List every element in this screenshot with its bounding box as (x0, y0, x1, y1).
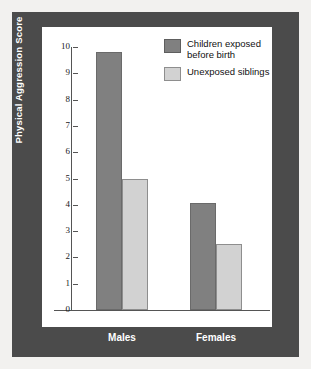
bar-males-unexposed (122, 179, 148, 311)
y-axis-tick-label: 6 (66, 146, 71, 157)
legend-item-unexposed: Unexposed siblings (164, 66, 274, 81)
y-axis-tick-mark (73, 73, 78, 74)
y-axis-tick-label: 5 (66, 173, 71, 184)
y-axis-tick-mark (73, 257, 78, 258)
y-axis-line (71, 47, 72, 310)
chart-figure: Physical Aggression Score Males Females … (0, 0, 311, 369)
y-axis-tick-mark (73, 310, 78, 311)
chart-legend: Children exposed before birth Unexposed … (164, 38, 274, 87)
bar-males-exposed (96, 52, 122, 310)
y-axis-tick-label: 8 (66, 94, 71, 105)
legend-swatch-dark-gray-icon (164, 39, 181, 53)
legend-swatch-light-gray-icon (164, 67, 181, 81)
plot-area: 012345678910 Children exposed before bir… (42, 27, 272, 327)
y-axis-tick-label: 1 (66, 278, 71, 289)
legend-item-exposed: Children exposed before birth (164, 38, 274, 60)
y-axis-tick-mark (73, 47, 78, 48)
y-axis-tick-label: 7 (66, 120, 71, 131)
legend-label-unexposed: Unexposed siblings (187, 66, 269, 77)
bar-females-exposed (190, 203, 216, 310)
legend-label-exposed-line2: before birth (187, 49, 235, 60)
y-axis-tick-mark (73, 284, 78, 285)
y-axis-tick-label: 9 (66, 67, 71, 78)
legend-label-unexposed-line1: Unexposed siblings (187, 66, 269, 77)
y-axis-tick-label: 4 (66, 199, 71, 210)
y-axis-tick-mark (73, 179, 78, 180)
legend-label-exposed-line1: Children exposed (187, 38, 261, 49)
y-axis-title-text: Physical Aggression Score (13, 0, 24, 260)
bar-females-unexposed (216, 244, 242, 310)
y-axis-title: Physical Aggression Score (13, 0, 24, 80)
y-axis-tick-mark (73, 152, 78, 153)
y-axis-tick-label: 3 (66, 225, 71, 236)
y-axis-tick-label: 2 (66, 251, 71, 262)
y-axis-tick-mark (73, 100, 78, 101)
y-axis-tick-mark (73, 126, 78, 127)
y-axis-tick-label: 0 (66, 304, 71, 315)
x-axis-line (54, 310, 270, 311)
y-axis-tick-mark (73, 205, 78, 206)
y-axis-tick-label: 10 (61, 41, 70, 52)
y-axis-tick-mark (73, 231, 78, 232)
legend-label-exposed: Children exposed before birth (187, 38, 261, 60)
x-axis-category-label-females: Females (176, 332, 256, 343)
x-axis-category-label-males: Males (82, 332, 162, 343)
